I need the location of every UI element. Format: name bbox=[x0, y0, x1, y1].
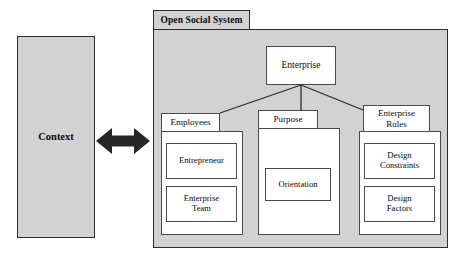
purpose-label: Purpose bbox=[274, 114, 303, 124]
enterprise-team-label: Enterprise Team bbox=[184, 194, 219, 213]
entrepreneur-box: Entrepreneur bbox=[166, 143, 237, 179]
design-factors-box: Design Factors bbox=[364, 186, 435, 222]
purpose-tab: Purpose bbox=[258, 110, 318, 129]
design-constraints-box: Design Constraints bbox=[364, 143, 435, 179]
double-headed-arrow-icon bbox=[96, 126, 150, 156]
orientation-box: Orientation bbox=[265, 168, 331, 201]
open-social-system-tab: Open Social System bbox=[153, 10, 250, 30]
enterprise-team-box: Enterprise Team bbox=[166, 186, 237, 222]
context-box: Context bbox=[17, 36, 95, 238]
employees-tab: Employees bbox=[161, 113, 220, 132]
enterprise-rules-label: Enterprise Rules bbox=[378, 108, 415, 128]
orientation-label: Orientation bbox=[278, 180, 317, 190]
context-label: Context bbox=[38, 131, 74, 143]
design-constraints-label: Design Constraints bbox=[380, 151, 419, 170]
enterprise-label: Enterprise bbox=[281, 60, 320, 71]
employees-label: Employees bbox=[171, 117, 211, 127]
open-social-system-label: Open Social System bbox=[160, 15, 242, 26]
design-factors-label: Design Factors bbox=[387, 194, 412, 213]
enterprise-box: Enterprise bbox=[266, 46, 336, 85]
enterprise-rules-tab: Enterprise Rules bbox=[363, 105, 430, 132]
diagram-canvas: Context Open Social System Enterprise Em… bbox=[0, 0, 462, 260]
entrepreneur-label: Entrepreneur bbox=[179, 156, 224, 166]
